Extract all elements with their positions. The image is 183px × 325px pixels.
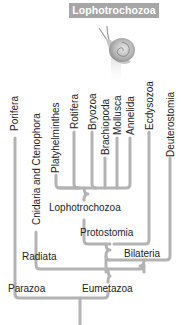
- eumetazoa-stem: [108, 269, 110, 282]
- clade-eumetazoa: Eumetazoa: [82, 283, 133, 294]
- clade-bilateria: Bilateria: [124, 248, 160, 259]
- taxon-porifera: Porifera: [9, 96, 20, 131]
- annelida-branch: [60, 138, 130, 188]
- clade-radiata: Radiata: [22, 251, 56, 262]
- taxon-annelida: Annelida: [125, 96, 136, 135]
- taxon-platyhelminthes: Platyhelminthes: [50, 102, 61, 173]
- lophotrochozoa-stem: [84, 188, 88, 200]
- taxon-cnidaria-ctenophora: Cnidaria and Ctenophora: [31, 113, 42, 225]
- taxon-mollusca: Mollusca: [112, 96, 123, 135]
- taxon-deuterostomia: Deuterostomia: [165, 92, 176, 157]
- clade-lophotrochozoa: Lophotrochozoa: [49, 202, 121, 213]
- taxon-bryozoa: Bryozoa: [87, 93, 98, 130]
- taxon-ecdysozoa: Ecdysozoa: [144, 81, 155, 130]
- rotifera-branch: [74, 132, 78, 188]
- bryozoa-branch: [92, 132, 96, 188]
- protostomia-stem: [106, 244, 110, 256]
- phylogenetic-tree: [0, 0, 183, 325]
- taxon-rotifera: Rotifera: [69, 94, 80, 129]
- clade-protostomia: Protostomia: [80, 227, 133, 238]
- platyhelminthes-branch: [56, 175, 80, 188]
- clade-parazoa: Parazoa: [8, 283, 45, 294]
- taxon-brachiopoda: Brachiopoda: [100, 99, 111, 155]
